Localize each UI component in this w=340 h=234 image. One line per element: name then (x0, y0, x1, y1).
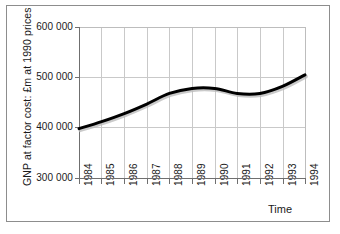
chart-figure: 600 000 500 000 400 000 300 000 1984 198… (0, 0, 340, 234)
xtick-mark-1985 (101, 179, 102, 184)
gridline-x-1993 (283, 28, 284, 178)
xtick-mark-1987 (147, 179, 148, 184)
gridline-x-1991 (237, 28, 238, 178)
xtick-mark-1986 (124, 179, 125, 184)
gridline-x-1989 (192, 28, 193, 178)
xtick-mark-1993 (283, 179, 284, 184)
gridline-x-1986 (124, 28, 125, 178)
gridline-x-1992 (260, 28, 261, 178)
xtick-mark-1984 (79, 179, 80, 184)
ytick-label-600000-wrap: 600 000 (8, 21, 73, 33)
xtick-label-1987: 1987 (151, 163, 162, 186)
y-axis-title: GNP at factor cost: £m at 1990 prices (21, 16, 33, 186)
xtick-mark-1989 (192, 179, 193, 184)
x-axis-line (79, 178, 306, 179)
gridline-x-1990 (215, 28, 216, 178)
plot-border-top (79, 27, 306, 28)
xtick-label-1988: 1988 (173, 163, 184, 186)
xtick-label-1993: 1993 (287, 163, 298, 186)
xtick-label-1985: 1985 (105, 163, 116, 186)
xtick-label-1984: 1984 (83, 163, 94, 186)
xtick-label-1989: 1989 (196, 163, 207, 186)
gridline-x-1985 (101, 28, 102, 178)
gridline-x-1987 (147, 28, 148, 178)
xtick-label-1994: 1994 (309, 163, 320, 186)
plot-border-right (305, 27, 306, 179)
xtick-mark-1994 (305, 179, 306, 184)
ytick-label-500000-wrap: 500 000 (8, 71, 73, 83)
xtick-mark-1990 (215, 179, 216, 184)
xtick-mark-1992 (260, 179, 261, 184)
x-axis-title: Time (268, 203, 292, 215)
xtick-mark-1988 (169, 179, 170, 184)
xtick-mark-1991 (237, 179, 238, 184)
gridline-x-1988 (169, 28, 170, 178)
ytick-label-400000-wrap: 400 000 (8, 121, 73, 133)
xtick-label-1986: 1986 (128, 163, 139, 186)
xtick-label-1991: 1991 (241, 163, 252, 186)
xtick-label-1990: 1990 (219, 163, 230, 186)
ytick-label-300000-wrap: 300 000 (8, 172, 73, 184)
xtick-label-1992: 1992 (264, 163, 275, 186)
y-axis-line (79, 27, 80, 179)
